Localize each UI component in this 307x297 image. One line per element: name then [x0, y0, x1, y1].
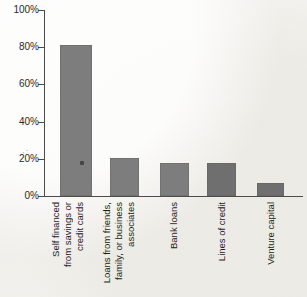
- category-label-lines-of-credit: Lines of credit: [216, 202, 228, 296]
- category-label-line: family, or business: [113, 202, 124, 280]
- bar-venture-capital: [257, 183, 284, 196]
- category-label-loans-friends-family: Loans from friends, family, or business …: [101, 202, 137, 296]
- bar-self-financed: [60, 45, 92, 196]
- bar-chart: 100% 80% 60% 40% 20% 0% ·ˊ Self financed…: [0, 0, 307, 297]
- category-label-line: Venture capital: [265, 202, 276, 265]
- y-tick-label-20: 20%: [0, 154, 39, 164]
- category-label-line: Self financed: [50, 202, 61, 257]
- category-label-bank-loans: Bank loans: [168, 202, 180, 296]
- category-label-line: credit cards: [74, 202, 85, 251]
- category-label-line: Bank loans: [168, 202, 179, 249]
- bar-scan-mark: [80, 161, 84, 165]
- category-label-line: from savings or: [62, 202, 73, 267]
- y-tick-label-80: 80%: [0, 42, 39, 52]
- y-tick-label-40: 40%: [0, 117, 39, 127]
- category-label-venture-capital: Venture capital: [265, 202, 277, 296]
- y-tick-label-0: 0%: [0, 191, 39, 201]
- scan-smudge: ·ˊ: [22, 148, 29, 157]
- y-axis-line: [44, 10, 45, 197]
- category-label-line: associates: [125, 202, 136, 247]
- bar-bank-loans: [160, 163, 189, 196]
- bar-loans-friends-family: [110, 158, 139, 196]
- x-axis-line: [38, 196, 303, 197]
- y-tick-label-100: 100%: [0, 5, 39, 15]
- y-tick-label-60: 60%: [0, 79, 39, 89]
- category-label-self-financed: Self financed from savings or credit car…: [50, 202, 86, 296]
- category-label-line: Lines of credit: [216, 202, 227, 261]
- bar-lines-of-credit: [207, 163, 236, 196]
- category-label-line: Loans from friends,: [101, 202, 112, 283]
- plot-area: 100% 80% 60% 40% 20% 0% ·ˊ Self financed…: [0, 0, 307, 297]
